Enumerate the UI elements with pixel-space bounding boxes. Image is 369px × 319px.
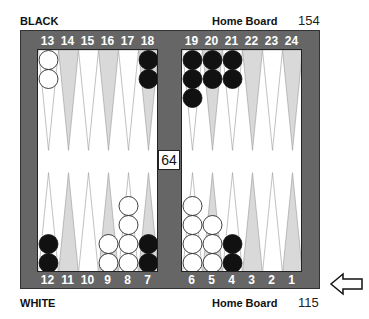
point-number-label: 9 [98, 273, 118, 287]
point-number-label: 17 [118, 34, 138, 48]
point-number-label: 10 [78, 273, 98, 287]
white-checker[interactable] [39, 51, 58, 70]
point-number-label: 1 [282, 273, 302, 287]
point-number-label: 6 [182, 273, 202, 287]
black-checker[interactable] [223, 70, 242, 89]
point-number-label: 19 [182, 34, 202, 48]
point-10[interactable] [79, 173, 99, 272]
point-number-label: 12 [38, 273, 58, 287]
arrow-left-icon [329, 272, 365, 296]
point-number-label: 24 [282, 34, 302, 48]
point-1[interactable] [283, 173, 303, 272]
point-number-label: 13 [38, 34, 58, 48]
point-3[interactable] [243, 173, 263, 272]
white-player-label: WHITE [20, 297, 55, 309]
point-14[interactable] [59, 50, 79, 150]
black-checker[interactable] [39, 235, 58, 254]
black-checker[interactable] [183, 70, 202, 89]
white-checker[interactable] [183, 216, 202, 235]
outer-board [37, 49, 158, 272]
point-number-label: 23 [262, 34, 282, 48]
black-checker[interactable] [139, 70, 158, 89]
white-checker[interactable] [99, 254, 118, 273]
point-number-label: 4 [222, 273, 242, 287]
point-number-label: 5 [202, 273, 222, 287]
point-22[interactable] [243, 50, 263, 150]
white-pip-count: 115 [298, 295, 319, 310]
home-board-points[interactable] [182, 50, 302, 272]
black-checker[interactable] [203, 51, 222, 70]
point-number-label: 20 [202, 34, 222, 48]
black-checker[interactable] [139, 235, 158, 254]
outer-board-points[interactable] [38, 50, 158, 272]
point-number-label: 2 [262, 273, 282, 287]
point-number-label: 18 [138, 34, 158, 48]
white-checker[interactable] [183, 254, 202, 273]
point-number-label: 21 [222, 34, 242, 48]
point-23[interactable] [263, 50, 283, 150]
black-player-label: BLACK [20, 15, 59, 27]
point-15[interactable] [79, 50, 99, 150]
white-checker[interactable] [203, 235, 222, 254]
point-2[interactable] [263, 173, 283, 272]
point-number-label: 16 [98, 34, 118, 48]
point-11[interactable] [59, 173, 79, 272]
white-home-board-label: Home Board [212, 297, 277, 309]
white-checker[interactable] [39, 70, 58, 89]
white-checker[interactable] [203, 216, 222, 235]
white-checker[interactable] [119, 254, 138, 273]
point-17[interactable] [119, 50, 139, 150]
black-checker[interactable] [183, 89, 202, 108]
black-checker[interactable] [139, 254, 158, 273]
doubling-cube[interactable]: 64 [158, 150, 180, 170]
black-checker[interactable] [223, 254, 242, 273]
black-checker[interactable] [139, 51, 158, 70]
point-24[interactable] [283, 50, 303, 150]
home-board [181, 49, 302, 272]
black-checker[interactable] [203, 70, 222, 89]
black-pip-count: 154 [298, 13, 320, 28]
black-checker[interactable] [223, 235, 242, 254]
black-checker[interactable] [39, 254, 58, 273]
point-number-label: 7 [138, 273, 158, 287]
white-checker[interactable] [183, 235, 202, 254]
point-16[interactable] [99, 50, 119, 150]
white-checker[interactable] [119, 235, 138, 254]
point-number-label: 3 [242, 273, 262, 287]
white-checker[interactable] [119, 216, 138, 235]
point-number-label: 11 [58, 273, 78, 287]
point-number-label: 22 [242, 34, 262, 48]
point-number-label: 8 [118, 273, 138, 287]
black-home-board-label: Home Board [212, 15, 277, 27]
white-checker[interactable] [119, 197, 138, 216]
white-checker[interactable] [183, 197, 202, 216]
point-number-label: 14 [58, 34, 78, 48]
white-checker[interactable] [99, 235, 118, 254]
black-checker[interactable] [223, 51, 242, 70]
black-checker[interactable] [183, 51, 202, 70]
white-checker[interactable] [203, 254, 222, 273]
point-number-label: 15 [78, 34, 98, 48]
